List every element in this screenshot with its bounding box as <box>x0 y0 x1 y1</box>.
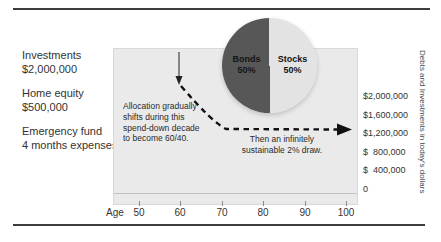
x-tick-90 <box>305 201 306 206</box>
asset-item-home-equity: Home equity $500,000 <box>22 87 84 114</box>
x-tick-label: 80 <box>248 207 278 218</box>
annotation-allocation-shift: Allocation gradually shifts during this … <box>123 101 203 144</box>
x-tick-label: 70 <box>207 207 237 218</box>
x-tick-60 <box>180 201 181 206</box>
retirement-plan-figure: Investments $2,000,000 Home equity $500,… <box>0 0 441 242</box>
x-tick-50 <box>139 201 140 206</box>
y-tick-label: $1,200,000 <box>363 128 413 138</box>
x-tick-70 <box>222 201 223 206</box>
x-axis-title: Age <box>106 207 124 218</box>
x-tick-label: 90 <box>290 207 320 218</box>
asset-title: Home equity <box>22 87 84 101</box>
y-tick-label: 0 <box>363 184 413 194</box>
x-tick-label: 100 <box>331 207 361 218</box>
annotation-sustainable-draw: Then an infinitely sustainable 2% draw. <box>227 134 337 156</box>
asset-title: Investments <box>22 49 81 63</box>
y-tick-label: $ 400,000 <box>363 165 413 175</box>
pie-slice-label-stocks: Stocks 50% <box>270 54 315 76</box>
x-tick-80 <box>263 201 264 206</box>
y-axis-title: Debts and Investments in today's dollars <box>415 50 427 216</box>
allocation-pie-chart: Bonds 50% Stocks 50% <box>222 18 317 113</box>
asset-item-emergency-fund: Emergency fund 4 months expenses <box>22 125 117 152</box>
y-tick-label: $1,600,000 <box>363 110 413 120</box>
asset-title: Emergency fund <box>22 125 117 139</box>
asset-value: $500,000 <box>22 101 84 115</box>
asset-item-investments: Investments $2,000,000 <box>22 49 81 76</box>
x-tick-label: 50 <box>124 207 154 218</box>
asset-value: 4 months expenses <box>22 139 117 153</box>
y-tick-label: $2,000,000 <box>363 91 413 101</box>
asset-value: $2,000,000 <box>22 63 81 77</box>
pie-slice-label-bonds: Bonds 50% <box>224 54 269 76</box>
y-tick-label: $ 800,000 <box>363 147 413 157</box>
top-divider <box>13 8 430 10</box>
zero-gridline <box>114 193 357 194</box>
bottom-divider <box>13 224 425 226</box>
x-tick-100 <box>346 201 347 206</box>
x-tick-label: 60 <box>165 207 195 218</box>
